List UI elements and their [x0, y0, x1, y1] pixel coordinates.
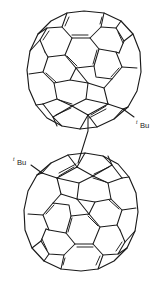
top-cage-double-6	[67, 56, 77, 66]
bottom-tbu-bond	[31, 165, 42, 173]
top-cage-bond-rim-7	[124, 34, 133, 41]
top-cage-bond-lower-10	[72, 106, 88, 115]
top-cage-bond-lower-6	[43, 99, 57, 104]
top-tbu-bond	[123, 109, 134, 117]
top-cage-bond-belt-4	[45, 52, 48, 57]
bottom-cage-bond-belt-4	[117, 225, 120, 230]
top-cage-bond-rim-3	[101, 27, 124, 53]
fullerene-dimer-diagram: t Bu t Bu	[0, 0, 165, 281]
bottom-cage-bond-lower-13	[42, 163, 51, 173]
bottom-cage-bond-belt-2	[89, 199, 122, 227]
top-cage-bond-lower-12	[108, 104, 128, 109]
bottom-tbu-label: Bu	[17, 158, 26, 167]
bottom-cage-bond-belt-7	[28, 214, 43, 215]
bottom-cage-bond-lower-12	[37, 173, 57, 178]
top-cage-bond-lower-3	[88, 79, 112, 88]
top-cage-bond-lower-16	[80, 115, 88, 129]
bottom-cage-bond-rim-1	[61, 244, 103, 269]
bottom-cage-bond-lower-3	[53, 194, 77, 203]
top-cage-bond-lower-5	[86, 99, 108, 104]
top-fullerene-cage	[27, 11, 141, 129]
top-cage-bond-lower-7	[36, 104, 43, 105]
top-cage-bond-belt-2	[43, 55, 76, 83]
top-cage-bond-belt-1	[65, 38, 99, 68]
top-cage-bond-belt-6	[29, 72, 43, 74]
bottom-cage-bond-belt-6	[122, 208, 136, 210]
top-cage-bond-belt-7	[122, 67, 137, 68]
bottom-cage-bond-belt-1	[66, 214, 100, 244]
top-cage-bond-lower-15	[88, 115, 97, 127]
bottom-cage-bond-rim-5	[44, 254, 49, 261]
bottom-cage-bond-rim-7	[32, 241, 41, 248]
top-cage-bond-lower-13	[114, 109, 123, 119]
top-cage-bond-rim-5	[116, 21, 121, 28]
bottom-cage-bond-rim-3	[41, 229, 64, 255]
bottom-cage-double-11	[94, 167, 109, 174]
top-cage-double-11	[56, 108, 71, 115]
top-tbu-label: Bu	[140, 121, 149, 130]
bottom-cage-bond-lower-6	[108, 178, 122, 183]
bottom-tbu-prefix: t	[13, 156, 15, 162]
bottom-tbu-label-group: t Bu	[13, 156, 26, 167]
top-cage-bond-rim-1	[62, 13, 104, 38]
top-cage-bond-lower-4	[104, 88, 108, 104]
bottom-fullerene-cage	[24, 153, 138, 271]
top-cage-bond-lower-8	[43, 104, 62, 126]
bottom-cage-bond-lower-15	[68, 155, 77, 167]
top-tbu-label-group: t Bu	[136, 119, 149, 130]
bottom-cage-bond-lower-4	[57, 178, 61, 194]
bottom-cage-bond-lower-5	[57, 178, 79, 183]
figure-root: t Bu t Bu	[0, 0, 165, 281]
bottom-cage-bond-lower-8	[103, 156, 122, 178]
bottom-cage-bond-lower-7	[122, 177, 129, 178]
bottom-cage-double-6	[88, 216, 98, 226]
bottom-cage-bond-lower-10	[77, 167, 93, 176]
top-tbu-prefix: t	[136, 119, 138, 125]
